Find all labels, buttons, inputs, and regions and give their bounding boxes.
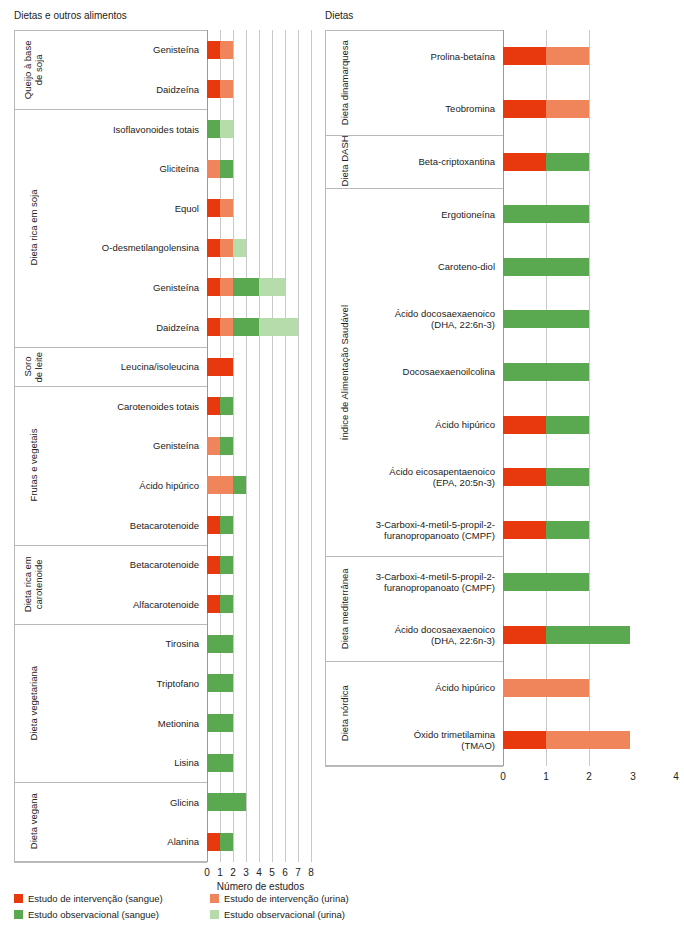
label-column-bottom-border: [14, 862, 207, 863]
bar-segment: [220, 556, 233, 574]
group-label: Queijo à base de soja: [18, 30, 48, 109]
bar-segment: [503, 47, 546, 65]
bar-segment: [546, 468, 589, 486]
gridline-1: [546, 30, 547, 766]
row-label: Ergotioneína: [361, 202, 495, 226]
bar-segment: [207, 239, 220, 257]
bar-segment: [207, 397, 220, 415]
group-label: Dieta vegetariana: [18, 624, 48, 782]
bar-segment: [503, 679, 589, 697]
bar-segment: [503, 731, 546, 749]
row-label: Isoflavonoides totais: [50, 117, 199, 141]
group-label: Dieta nórdica: [329, 661, 359, 766]
bar-segment: [207, 595, 220, 613]
x-tick-label-0: 0: [493, 771, 513, 782]
bar-segment: [207, 516, 220, 534]
legend-label-obs-blood: Estudo observacional (sangue): [28, 909, 159, 920]
row-label: Daidzeína: [50, 315, 199, 339]
bar-segment: [546, 100, 589, 118]
legend-item-int-blood: Estudo de intervenção (sangue): [14, 893, 200, 904]
bar-segment: [207, 278, 220, 296]
x-tick-label-3: 3: [623, 771, 643, 782]
row-label: Betacarotenoide: [50, 553, 199, 577]
bar-segment: [220, 160, 233, 178]
bar-segment: [503, 626, 546, 644]
x-axis-title: Número de estudos: [207, 881, 314, 892]
gridline-8: [311, 30, 312, 862]
bar-segment: [546, 731, 630, 749]
bar-segment: [207, 318, 220, 336]
bar-segment: [233, 239, 246, 257]
bar-segment: [546, 521, 589, 539]
row-label: 3-Carboxi-4-metil-5-propil-2- furanoprop…: [361, 518, 495, 542]
legend-item-int-urine: Estudo de intervenção (urina): [210, 893, 349, 904]
legend-swatch-int-urine: [210, 894, 219, 903]
bar-segment: [207, 80, 220, 98]
row-label: Docosaexaenoilcolina: [361, 360, 495, 384]
row-label: Leucina/isoleucina: [50, 355, 199, 379]
row-label: Ácido eicosapentaenoico (EPA, 20:5n-3): [361, 465, 495, 489]
bar-segment: [259, 278, 285, 296]
bar-segment: [503, 310, 589, 328]
bar-segment: [207, 714, 233, 732]
bar-segment: [207, 793, 246, 811]
bar-segment: [503, 153, 546, 171]
row-label: Teobromina: [361, 97, 495, 121]
bar-segment: [220, 397, 233, 415]
panel-right-plot: Dieta dinamarquesaProlina-betaínaTeobrom…: [325, 30, 630, 766]
bar-segment: [503, 573, 589, 591]
legend: Estudo de intervenção (sangue) Estudo de…: [14, 893, 359, 925]
gridline-5: [272, 30, 273, 862]
bar-segment: [233, 278, 259, 296]
gridline-7: [298, 30, 299, 862]
bar-segment: [233, 476, 246, 494]
row-label: Ácido hipúrico: [361, 676, 495, 700]
bar-segment: [220, 41, 233, 59]
group-label: Dieta vegana: [18, 782, 48, 861]
bar-segment: [503, 468, 546, 486]
legend-swatch-int-blood: [14, 894, 23, 903]
bar-segment: [503, 521, 546, 539]
bar-segment: [207, 635, 233, 653]
row-label: Gliciteína: [50, 157, 199, 181]
x-tick-label-2: 2: [579, 771, 599, 782]
group-label: Frutas e vegetais: [18, 386, 48, 544]
group-label: Dieta mediterrânea: [329, 556, 359, 661]
row-label: Genisteína: [50, 434, 199, 458]
row-label: Caroteno-diol: [361, 255, 495, 279]
bar-segment: [207, 833, 220, 851]
row-label: Lisina: [50, 751, 199, 775]
row-label: Tirosina: [50, 632, 199, 656]
row-label: Alanina: [50, 830, 199, 854]
legend-item-obs-blood: Estudo observacional (sangue): [14, 909, 200, 920]
bar-segment: [503, 205, 589, 223]
row-label: Genisteína: [50, 38, 199, 62]
bar-segment: [233, 318, 259, 336]
bar-segment: [503, 258, 589, 276]
bar-segment: [207, 556, 220, 574]
bar-segment: [220, 80, 233, 98]
legend-label-int-blood: Estudo de intervenção (sangue): [28, 893, 163, 904]
bar-segment: [503, 416, 546, 434]
bar-segment: [220, 595, 233, 613]
bar-segment: [207, 476, 233, 494]
legend-row-2: Estudo observacional (sangue) Estudo obs…: [14, 909, 359, 920]
x-tick-label-8: 8: [301, 867, 321, 878]
row-label: Alfacarotenoide: [50, 592, 199, 616]
legend-swatch-obs-urine: [210, 910, 219, 919]
bar-segment: [259, 318, 298, 336]
row-label: Beta-criptoxantina: [361, 150, 495, 174]
row-label: 3-Carboxi-4-metil-5-propil-2- furanoprop…: [361, 570, 495, 594]
panel-left-plot: Queijo à base de sojaGenisteínaDaidzeína…: [14, 30, 314, 862]
row-label: Equol: [50, 196, 199, 220]
group-label: Dieta DASH: [329, 135, 359, 188]
row-label: Óxido trimetilamina (TMAO): [361, 728, 495, 752]
row-label: Ácido docosaexaenoico (DHA, 22:6n-3): [361, 623, 495, 647]
gridline-2: [589, 30, 590, 766]
row-label: Triptofano: [50, 671, 199, 695]
bar-segment: [220, 516, 233, 534]
group-label: Dieta rica em soja: [18, 109, 48, 347]
panel-left-title: Dietas e outros alimentos: [14, 10, 127, 21]
row-label: Ácido hipúrico: [50, 473, 199, 497]
bar-segment: [220, 278, 233, 296]
